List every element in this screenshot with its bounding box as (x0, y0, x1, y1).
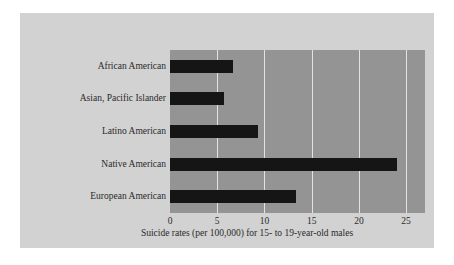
bar (170, 92, 224, 105)
category-label: Asian, Pacific Islander (24, 92, 166, 105)
bar (170, 158, 397, 171)
x-tick-label: 20 (354, 216, 364, 226)
chart-figure: African AmericanAsian, Pacific IslanderL… (0, 0, 454, 265)
x-tick-label: 15 (307, 216, 317, 226)
bar (170, 60, 233, 73)
category-label: Latino American (24, 125, 166, 138)
bar (170, 125, 258, 138)
x-axis-title: Suicide rates (per 100,000) for 15- to 1… (40, 228, 454, 238)
plot-area (170, 50, 425, 213)
x-tick-label: 0 (168, 216, 173, 226)
category-label: European American (24, 190, 166, 203)
category-label: Native American (24, 158, 166, 171)
bar (170, 190, 296, 203)
x-tick-label: 25 (401, 216, 411, 226)
gridline-x-25 (406, 50, 407, 213)
x-tick-label: 5 (215, 216, 220, 226)
gridline-x-10 (264, 50, 265, 213)
category-label: African American (24, 60, 166, 73)
category-axis-labels: African AmericanAsian, Pacific IslanderL… (20, 50, 166, 213)
gridline-x-15 (312, 50, 313, 213)
chart-panel: African AmericanAsian, Pacific IslanderL… (20, 13, 434, 248)
x-tick-label: 10 (260, 216, 270, 226)
gridline-x-20 (359, 50, 360, 213)
